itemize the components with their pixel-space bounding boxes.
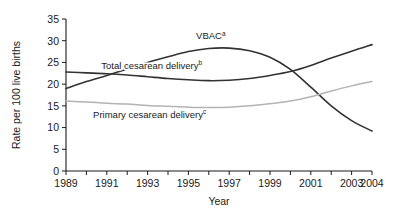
y-axis-tick-label: 35	[47, 13, 59, 25]
series-label: Total cesarean deliveryb	[101, 59, 202, 70]
y-axis-tick-label: 0	[53, 165, 59, 177]
x-axis-tick-label: 2004	[360, 177, 384, 189]
x-axis-tick-label: 1997	[218, 177, 242, 189]
x-axis-tick-label: 1999	[258, 177, 282, 189]
x-axis-tick-label: 1995	[177, 177, 201, 189]
series-label: VBACa	[196, 30, 226, 41]
x-axis-title: Year	[208, 195, 230, 207]
x-axis-tick-label: 2001	[299, 177, 323, 189]
x-axis-tick-label: 1991	[95, 177, 119, 189]
y-axis-tick-label: 10	[47, 121, 59, 133]
y-axis-tick-label: 5	[53, 143, 59, 155]
chart-figure: 0510152025303519891991199319951997199920…	[0, 0, 400, 221]
y-axis-title: Rate per 100 live births	[10, 41, 22, 149]
y-axis-tick-label: 20	[47, 78, 59, 90]
x-axis-tick-label: 1989	[54, 177, 78, 189]
y-axis-tick-label: 30	[47, 35, 59, 47]
data-series-line	[66, 82, 372, 108]
x-axis-tick-label: 1993	[136, 177, 160, 189]
y-axis-tick-label: 15	[47, 100, 59, 112]
line-chart: 0510152025303519891991199319951997199920…	[0, 0, 400, 221]
y-axis-tick-label: 25	[47, 56, 59, 68]
series-label: Primary cesarean deliveryc	[93, 108, 207, 119]
